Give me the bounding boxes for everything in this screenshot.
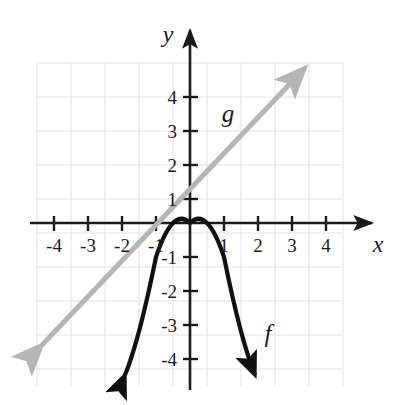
graph-figure: -4 -3 -2 -1 1 2 3 4 4 3 2 1 -1 -2 -3 -4 … [0,0,401,405]
x-tick-label-2: 2 [253,235,263,256]
y-tick-label-3: 3 [168,121,178,142]
y-tick-label--2: -2 [161,281,177,302]
curve-label-g: g [222,100,235,127]
y-tick-label--4: -4 [161,349,177,370]
y-tick-label-2: 2 [168,155,178,176]
x-tick-label--2: -2 [114,235,130,256]
y-tick-label-1: 1 [168,189,178,210]
y-tick-label-4: 4 [168,87,178,108]
x-tick-label-1: 1 [219,235,229,256]
x-tick-label-3: 3 [287,235,297,256]
x-axis-label: x [372,231,384,257]
y-axis-label: y [161,21,174,47]
y-tick-label--3: -3 [161,315,177,336]
x-tick-label-4: 4 [321,235,331,256]
x-tick-label--4: -4 [46,235,62,256]
x-tick-label--3: -3 [80,235,96,256]
coordinate-plane: -4 -3 -2 -1 1 2 3 4 4 3 2 1 -1 -2 -3 -4 … [0,0,401,405]
y-tick-label--1: -1 [161,247,177,268]
curve-label-f: f [265,320,275,347]
